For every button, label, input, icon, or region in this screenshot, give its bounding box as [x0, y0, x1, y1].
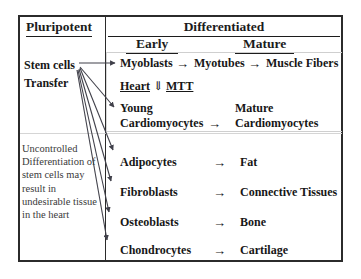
- cell-myotubes: Myotubes: [194, 56, 245, 71]
- header-early: Early: [126, 36, 178, 54]
- arrow-right-icon-myoblasts-to-myotubes: →: [176, 56, 189, 72]
- cell-mtt-label: MTT: [166, 79, 193, 93]
- cell-muscle-fibers: Muscle Fibers: [266, 56, 338, 71]
- cell-young-cardiomyocytes-line2: Cardiomyocytes: [120, 116, 203, 131]
- cell-myoblasts: Myoblasts: [120, 56, 173, 71]
- cell-osteoblasts: Osteoblasts: [120, 215, 179, 230]
- cell-fat: Fat: [240, 155, 257, 170]
- cell-adipocytes: Adipocytes: [120, 155, 177, 170]
- cell-cartilage: Cartilage: [240, 243, 288, 258]
- arrow-right-icon-cardiomyocytes: →: [208, 116, 221, 132]
- early-group-box-left-edge: [106, 52, 107, 132]
- arrow-right-icon-myotubes-to-muscle-fibers: →: [248, 56, 261, 72]
- cell-connective-tissues: Connective Tissues: [240, 185, 337, 200]
- cell-mature-cardiomyocytes-line2: Cardiomyocytes: [235, 116, 318, 131]
- double-down-arrow-icon: ⇓: [150, 79, 166, 93]
- cell-bone: Bone: [240, 215, 266, 230]
- cell-young-cardiomyocytes-line1: Young: [120, 101, 153, 116]
- section-divider: [20, 133, 342, 134]
- cell-chondrocytes: Chondrocytes: [120, 243, 191, 258]
- header-pluripotent: Pluripotent: [26, 19, 92, 37]
- label-stem-cells: Stem cells: [24, 58, 75, 73]
- cell-mature-cardiomyocytes-line1: Mature: [235, 101, 273, 116]
- note-uncontrolled-differentiation: Uncontrolled Differentiation of stem cel…: [22, 142, 104, 221]
- arrow-right-icon-adipocytes: →: [213, 155, 226, 171]
- cell-heart-label: Heart: [120, 79, 150, 93]
- arrow-right-icon-chondrocytes: →: [213, 243, 226, 259]
- cell-fibroblasts: Fibroblasts: [120, 185, 178, 200]
- arrow-right-icon-fibroblasts: →: [213, 185, 226, 201]
- label-transfer: Transfer: [24, 76, 68, 91]
- header-mature: Mature: [235, 36, 294, 54]
- diagram-canvas: Pluripotent Differentiated Early Mature …: [0, 0, 361, 279]
- header-differentiated: Differentiated: [108, 19, 340, 37]
- arrow-right-icon-osteoblasts: →: [213, 215, 226, 231]
- cell-heart-mtt: Heart⇓MTT: [120, 79, 193, 94]
